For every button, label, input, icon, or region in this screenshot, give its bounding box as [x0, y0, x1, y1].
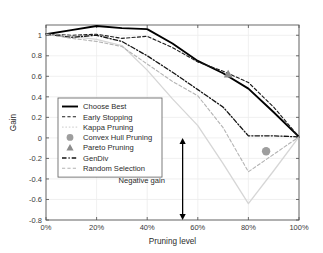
y-tick-label: 1 — [38, 31, 42, 40]
y-tick-label: 0.2 — [32, 113, 42, 122]
y-tick-label: 0 — [38, 134, 42, 143]
chart-legend: Choose BestEarly StoppingKappa PruningCo… — [58, 98, 162, 177]
x-axis-title: Pruning level — [149, 237, 197, 246]
legend-item-kappa-pruning-label: Kappa Pruning — [83, 123, 133, 132]
x-tick-label: 40% — [140, 223, 155, 232]
legend-item-early-stopping-label: Early Stopping — [83, 113, 132, 122]
legend-item-pareto-pruning-label: Pareto Pruning — [83, 143, 134, 152]
x-tick-label: 80% — [241, 223, 256, 232]
marker-convex-hull-pruning — [262, 147, 270, 155]
y-tick-label: -0.4 — [29, 175, 42, 184]
legend-item-random-selection-label: Random Selection — [83, 164, 145, 173]
x-tick-label: 20% — [89, 223, 104, 232]
legend-item-gendiv-label: GenDiv — [83, 154, 109, 163]
y-axis-title: Gain — [9, 113, 18, 131]
y-tick-label: 0.8 — [32, 51, 42, 60]
y-tick-label: -0.2 — [29, 154, 42, 163]
y-tick-label: 0.6 — [32, 72, 42, 81]
legend-item-choose-best-label: Choose Best — [83, 102, 127, 111]
y-tick-label: 0.4 — [32, 93, 42, 102]
x-tick-label: 0% — [41, 223, 52, 232]
legend-item-convex-hull-pruning-swatch — [67, 134, 74, 141]
y-tick-label: -0.6 — [29, 195, 42, 204]
x-tick-label: 100% — [289, 223, 309, 232]
chart-container: Negative gain 10.80.60.40.20-0.2-0.4-0.6… — [0, 0, 323, 253]
gain-vs-pruning-level-chart: Negative gain 10.80.60.40.20-0.2-0.4-0.6… — [0, 0, 323, 253]
legend-item-convex-hull-pruning-label: Convex Hull Pruning — [83, 133, 152, 142]
x-tick-label: 60% — [190, 223, 205, 232]
